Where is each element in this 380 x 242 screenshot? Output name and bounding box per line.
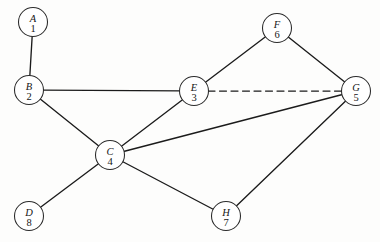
node-c[interactable]: C4	[96, 141, 125, 170]
node-a[interactable]: A1	[19, 8, 48, 37]
node-number-e: 3	[191, 92, 196, 103]
edge-b-c	[40, 99, 99, 146]
node-number-c: 4	[107, 156, 113, 167]
node-b[interactable]: B2	[15, 76, 44, 105]
edge-c-g	[124, 95, 343, 152]
edge-a-b	[30, 36, 32, 76]
node-number-g: 5	[353, 92, 358, 103]
edge-c-e	[121, 99, 183, 146]
graph-diagram: A1B2C4D8E3F6G5H7	[0, 0, 380, 242]
edges-layer	[30, 36, 346, 210]
node-f[interactable]: F6	[263, 14, 292, 43]
node-e[interactable]: E3	[180, 77, 209, 106]
edge-e-f	[205, 36, 266, 82]
node-number-a: 1	[30, 23, 35, 34]
edge-c-d	[40, 163, 99, 207]
node-d[interactable]: D8	[15, 202, 44, 231]
node-number-f: 6	[274, 29, 279, 40]
edge-b-e	[43, 90, 180, 91]
node-number-h: 7	[223, 217, 228, 228]
edge-f-g	[288, 37, 345, 83]
nodes-layer: A1B2C4D8E3F6G5H7	[15, 8, 371, 231]
edge-c-h	[122, 162, 213, 210]
node-h[interactable]: H7	[212, 202, 241, 231]
node-number-d: 8	[26, 217, 31, 228]
graph-svg-canvas: A1B2C4D8E3F6G5H7	[0, 0, 380, 242]
node-g[interactable]: G5	[342, 77, 371, 106]
edge-g-h	[236, 101, 346, 207]
node-number-b: 2	[26, 91, 31, 102]
